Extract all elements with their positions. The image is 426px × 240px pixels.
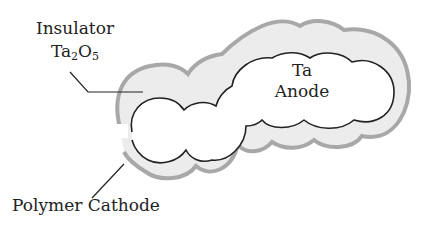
insulator-label: Insulator Ta2O5 — [30, 20, 120, 60]
anode-label: Ta Anode — [262, 62, 342, 100]
formula-o: O — [78, 41, 92, 61]
anode-label-line1: Ta — [262, 62, 342, 79]
formula-ta: Ta — [51, 41, 71, 61]
cathode-label: Polymer Cathode — [12, 197, 160, 214]
insulator-label-text: Insulator — [30, 20, 120, 37]
anode-label-line2: Anode — [262, 83, 342, 100]
formula-sub-5: 5 — [92, 50, 99, 63]
insulator-formula: Ta2O5 — [30, 43, 120, 60]
cathode-leader-line — [92, 164, 124, 198]
gap — [112, 124, 128, 138]
